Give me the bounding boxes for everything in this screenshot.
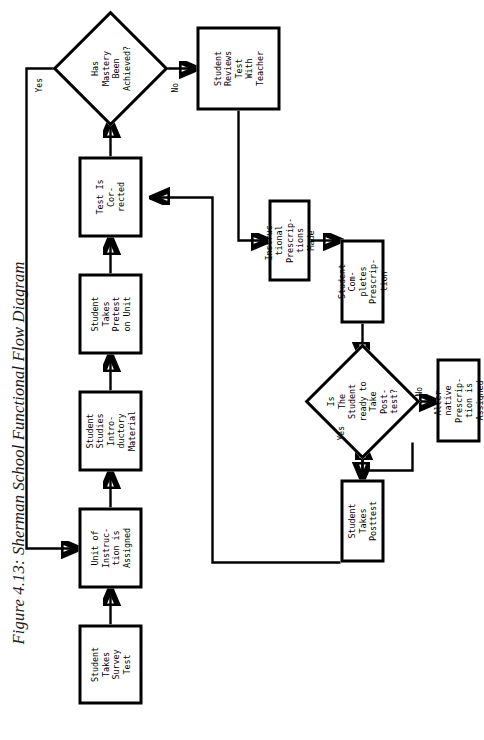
edge-label-mastery-no: No bbox=[170, 82, 179, 92]
node-label: Instruc- tional Prescrip- tions Made bbox=[263, 217, 316, 262]
node-student-takes-posttest[interactable]: Student Takes Posttest bbox=[340, 479, 384, 562]
node-label: Student Takes Pretest on Unit bbox=[89, 296, 131, 331]
node-label: Student Takes Posttest bbox=[346, 500, 378, 540]
node-label: Alter- native Prescrip- tion is Assigned bbox=[432, 377, 484, 422]
node-label: Has Mastery Been Achieved? bbox=[54, 12, 166, 124]
edge-label-ready-no: No bbox=[414, 386, 423, 396]
node-label: Student Reviews Test With Teacher bbox=[212, 50, 265, 85]
edge-label-mastery-yes: Yes bbox=[34, 78, 43, 92]
node-label: Student Takes Survey Test bbox=[89, 646, 131, 681]
node-test-is-corrected[interactable]: Test Is Cor- rected bbox=[78, 156, 142, 237]
node-student-reviews-test-with-teacher[interactable]: Student Reviews Test With Teacher bbox=[196, 26, 280, 110]
node-label: Is The Student ready to Take Post- test? bbox=[306, 345, 418, 457]
node-student-completes-prescription[interactable]: Student Com- pletes Prescrip- tion bbox=[340, 239, 384, 323]
node-unit-of-instruction-assigned[interactable]: Unit of Instruc- tion is Assigned bbox=[78, 507, 142, 588]
edge-label-ready-yes: Yes bbox=[336, 426, 345, 440]
node-label: Unit of Instruc- tion is Assigned bbox=[89, 527, 131, 567]
node-student-takes-pretest-on-unit[interactable]: Student Takes Pretest on Unit bbox=[78, 273, 142, 354]
edge-mastery-yes-to-unit bbox=[26, 68, 78, 548]
node-student-takes-survey-test[interactable]: Student Takes Survey Test bbox=[78, 624, 142, 704]
node-is-student-ready-to-take-posttest[interactable]: Is The Student ready to Take Post- test? bbox=[306, 345, 418, 457]
node-instructional-prescriptions-made[interactable]: Instruc- tional Prescrip- tions Made bbox=[268, 199, 310, 281]
node-label: Test Is Cor- rected bbox=[94, 179, 126, 214]
node-student-studies-introductory-material[interactable]: Student Studies Intro- ductory Material bbox=[78, 390, 142, 471]
node-label: Student Com- pletes Prescrip- tion bbox=[336, 258, 389, 303]
node-label: Student Studies Intro- ductory Material bbox=[84, 410, 137, 450]
node-has-mastery-been-achieved[interactable]: Has Mastery Been Achieved? bbox=[54, 12, 166, 124]
node-alternative-prescription-assigned[interactable]: Alter- native Prescrip- tion is Assigned bbox=[436, 358, 480, 442]
